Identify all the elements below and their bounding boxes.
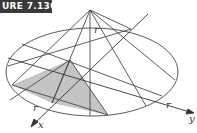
y-axis-label: y <box>189 113 195 124</box>
radius-label-right: r <box>166 99 171 110</box>
cone-diagram <box>0 0 197 133</box>
radius-label-left: r <box>33 102 38 113</box>
x-axis-label: x <box>38 119 44 130</box>
radius-label-top: r <box>94 24 99 35</box>
